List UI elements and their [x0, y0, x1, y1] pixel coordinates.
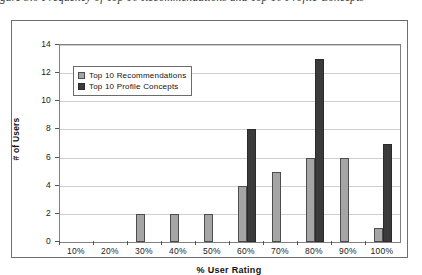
legend-label: Top 10 Profile Concepts: [89, 82, 179, 91]
y-tick-label: 6: [46, 152, 51, 162]
x-tick-label: 10%: [67, 246, 85, 256]
y-tick-label: 0: [46, 236, 51, 246]
gridline: [60, 186, 400, 187]
bar-40pct-s1: [170, 214, 179, 242]
x-tick-label: 80%: [305, 246, 323, 256]
x-tick-label: 100%: [371, 246, 394, 256]
x-tick-mark: [127, 241, 128, 245]
bar-60pct-s1: [238, 186, 247, 242]
x-tick-mark: [297, 241, 298, 245]
bar-100pct-s1: [374, 228, 383, 242]
y-tick-mark: [55, 185, 59, 186]
y-tick-label: 4: [46, 180, 51, 190]
bar-70pct-s1: [272, 172, 281, 242]
x-tick-label: 30%: [135, 246, 153, 256]
bar-90pct-s1: [340, 158, 349, 242]
legend-item: Top 10 Profile Concepts: [78, 81, 186, 92]
x-tick-mark: [263, 241, 264, 245]
x-tick-label: 60%: [237, 246, 255, 256]
x-tick-label: 50%: [203, 246, 221, 256]
y-tick-mark: [55, 213, 59, 214]
x-axis: 10%20%30%40%50%60%70%80%90%100%: [59, 241, 399, 263]
x-tick-mark: [195, 241, 196, 245]
bar-100pct-s2: [383, 144, 392, 243]
y-tick-label: 10: [41, 95, 51, 105]
x-tick-label: 40%: [169, 246, 187, 256]
x-tick-mark: [331, 241, 332, 245]
bar-50pct-s1: [204, 214, 213, 242]
bar-30pct-s1: [136, 214, 145, 242]
bar-60pct-s2: [247, 129, 256, 242]
legend-label: Top 10 Recommendations: [89, 71, 186, 80]
y-tick-mark: [55, 72, 59, 73]
gridline: [60, 129, 400, 130]
figure-frame: 02468101214 # of Users 10%20%30%40%50%60…: [11, 20, 408, 258]
figure-caption-cropped: gure 5.6 Frequency of Top 10 Recommendat…: [0, 0, 422, 5]
gridline: [60, 158, 400, 159]
x-tick-mark: [161, 241, 162, 245]
bar-80pct-s2: [315, 59, 324, 242]
bar-80pct-s1: [306, 158, 315, 242]
x-axis-title: % User Rating: [59, 265, 399, 275]
x-tick-mark: [365, 241, 366, 245]
x-tick-label: 20%: [101, 246, 119, 256]
y-tick-label: 14: [41, 39, 51, 49]
x-tick-mark: [229, 241, 230, 245]
y-tick-label: 12: [41, 67, 51, 77]
chart-legend: Top 10 RecommendationsTop 10 Profile Con…: [73, 66, 192, 96]
x-tick-label: 70%: [271, 246, 289, 256]
y-tick-mark: [55, 128, 59, 129]
y-axis-title: # of Users: [11, 117, 21, 160]
gridline: [60, 45, 400, 46]
gridline: [60, 214, 400, 215]
x-tick-label: 90%: [339, 246, 357, 256]
y-tick-label: 8: [46, 123, 51, 133]
x-tick-mark: [93, 241, 94, 245]
legend-item: Top 10 Recommendations: [78, 70, 186, 81]
y-tick-mark: [55, 100, 59, 101]
gridline: [60, 101, 400, 102]
y-tick-mark: [55, 44, 59, 45]
legend-swatch-icon: [78, 83, 85, 90]
y-tick-mark: [55, 157, 59, 158]
x-tick-mark: [59, 241, 60, 245]
y-tick-label: 2: [46, 208, 51, 218]
legend-swatch-icon: [78, 72, 85, 79]
